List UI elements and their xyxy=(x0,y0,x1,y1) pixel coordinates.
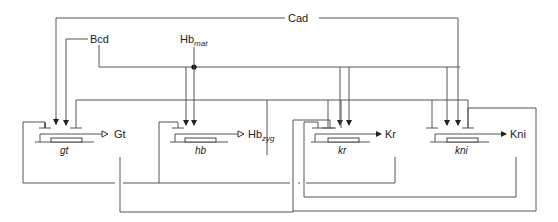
gt-output-loop xyxy=(120,157,293,212)
label-bcd: Bcd xyxy=(90,33,109,45)
label-gene-kni: kni xyxy=(455,145,469,156)
kni-feedback xyxy=(293,108,536,211)
label-gene-hb: hb xyxy=(195,145,207,156)
hb-mat-connections xyxy=(194,47,334,128)
cad-connections xyxy=(56,18,458,125)
label-kr-product: Kr xyxy=(385,128,396,140)
label-kni-product: Kni xyxy=(510,128,526,140)
label-gene-gt: gt xyxy=(60,145,70,156)
gene-network-diagram: Cad Bcd Hbmat Gt Hbzyg Kr Kni gt hb kr k… xyxy=(0,0,558,222)
label-hb-mat: Hbmat xyxy=(180,33,208,48)
bcd-connections xyxy=(66,39,460,125)
hb-feedback xyxy=(159,122,184,183)
gene-kr xyxy=(311,134,381,142)
label-hb-zyg: Hbzyg xyxy=(248,128,275,143)
gene-kni xyxy=(430,134,506,142)
label-cad: Cad xyxy=(288,12,308,24)
label-gene-kr: kr xyxy=(338,145,347,156)
upper-repression-lines xyxy=(70,100,474,155)
label-gt-product: Gt xyxy=(114,128,126,140)
gene-gt xyxy=(35,134,108,142)
gene-hb xyxy=(170,134,244,142)
